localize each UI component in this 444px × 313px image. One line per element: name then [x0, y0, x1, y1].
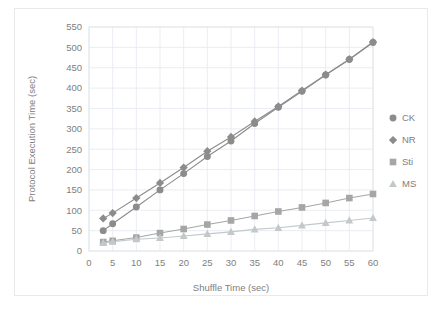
line-chart: 050100150200250300350400450500550 051015…	[15, 9, 427, 295]
y-tick-label: 450	[66, 62, 82, 73]
y-tick-label: 350	[66, 103, 82, 114]
y-tick-label: 200	[66, 164, 82, 175]
data-point-marker	[157, 186, 164, 193]
y-axis-title: Protocol Execution Time (sec)	[26, 76, 37, 202]
data-point-marker	[180, 226, 187, 233]
legend-label-ms: MS	[402, 178, 416, 189]
y-tick-label: 50	[71, 225, 82, 236]
y-tick-label: 150	[66, 184, 82, 195]
data-point-marker	[322, 200, 329, 207]
data-point-marker	[389, 136, 397, 144]
x-tick-label: 40	[273, 257, 284, 268]
data-point-marker	[156, 179, 164, 187]
x-tick-label: 45	[297, 257, 308, 268]
legend-label-ck: CK	[402, 112, 416, 123]
data-series-group	[99, 38, 377, 246]
y-tick-label: 100	[66, 205, 82, 216]
series-nr	[99, 38, 377, 223]
data-point-marker	[228, 217, 235, 224]
x-tick-label: 15	[155, 257, 166, 268]
y-tick-label: 250	[66, 144, 82, 155]
data-point-marker	[100, 227, 107, 234]
x-axis-title: Shuffle Time (sec)	[193, 282, 269, 293]
series-sti	[100, 191, 376, 246]
data-point-marker	[109, 220, 116, 227]
data-point-marker	[369, 214, 377, 221]
y-tick-label: 400	[66, 82, 82, 93]
y-tick-label: 300	[66, 123, 82, 134]
legend-label-nr: NR	[402, 134, 416, 145]
data-point-marker	[133, 204, 140, 211]
x-tick-label: 20	[178, 257, 189, 268]
series-line	[103, 42, 373, 218]
chart-container: 050100150200250300350400450500550 051015…	[14, 8, 428, 296]
chart-legend: CKNRStiMS	[389, 112, 416, 189]
data-point-marker	[180, 163, 188, 171]
data-point-marker	[251, 213, 258, 220]
x-tick-label: 5	[110, 257, 115, 268]
x-tick-label: 60	[368, 257, 379, 268]
x-tick-label: 10	[131, 257, 142, 268]
y-tick-label: 500	[66, 42, 82, 53]
data-point-marker	[299, 204, 306, 211]
data-point-marker	[275, 208, 282, 215]
legend-label-sti: Sti	[402, 156, 413, 167]
data-point-marker	[346, 195, 353, 202]
x-tick-label: 30	[226, 257, 237, 268]
y-axis-tick-labels: 050100150200250300350400450500550	[66, 21, 82, 256]
x-tick-label: 50	[320, 257, 331, 268]
x-tick-label: 55	[344, 257, 355, 268]
data-point-marker	[389, 180, 397, 187]
data-point-marker	[132, 194, 140, 202]
x-tick-label: 0	[86, 257, 91, 268]
data-point-marker	[370, 191, 377, 198]
data-point-marker	[390, 115, 397, 122]
x-axis-tick-labels: 051015202530354045505560	[86, 257, 378, 268]
x-tick-label: 25	[202, 257, 213, 268]
data-point-marker	[390, 159, 397, 166]
data-point-marker	[99, 214, 107, 222]
y-tick-label: 0	[77, 245, 82, 256]
y-tick-label: 550	[66, 21, 82, 32]
x-tick-label: 35	[249, 257, 260, 268]
data-point-marker	[204, 221, 211, 228]
